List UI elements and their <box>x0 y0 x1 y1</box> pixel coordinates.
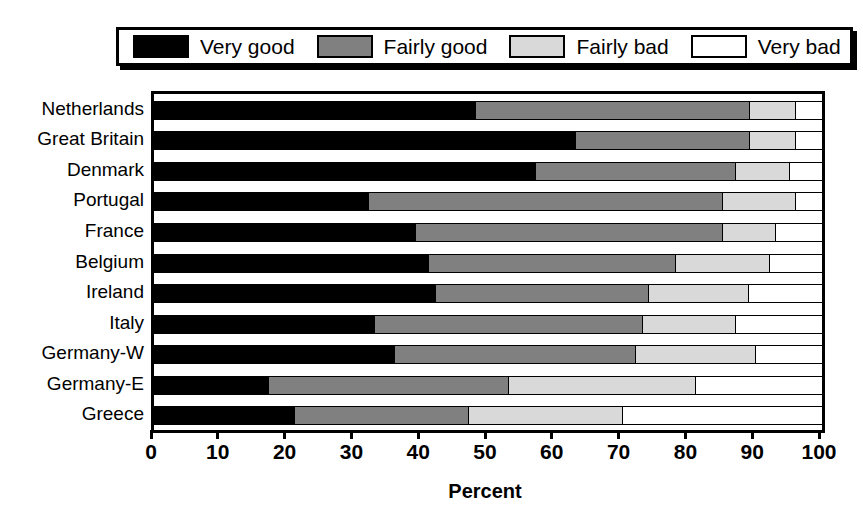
legend-item-very-bad: Very bad <box>691 30 859 63</box>
x-axis-ticks <box>151 430 819 439</box>
bar-segment-fairly-good <box>415 223 722 242</box>
bar-segment-fairly-good <box>428 254 675 273</box>
x-axis-title: Percent <box>151 481 819 501</box>
bar-segment-fairly-bad <box>648 284 748 303</box>
bar-segment-fairly-good <box>435 284 649 303</box>
y-axis-label-belgium: Belgium <box>0 252 144 271</box>
legend-item-fairly-bad: Fairly bad <box>509 30 686 63</box>
x-axis-tick-label: 90 <box>741 441 764 462</box>
bar-segment-very-bad <box>789 162 822 181</box>
bar-segment-very-good <box>154 131 575 150</box>
bar-segment-fairly-bad <box>749 101 796 120</box>
bar-segment-very-bad <box>769 254 822 273</box>
bar-row <box>154 406 822 425</box>
legend-item-fairly-good: Fairly good <box>317 30 506 63</box>
bar-row <box>154 192 822 211</box>
y-axis-label-great-britain: Great Britain <box>0 129 144 148</box>
bar-segment-fairly-bad <box>722 192 795 211</box>
y-axis-label-italy: Italy <box>0 313 144 332</box>
x-axis-tick-label: 40 <box>407 441 430 462</box>
bar-segment-fairly-bad <box>749 131 796 150</box>
bar-segment-fairly-bad <box>735 162 788 181</box>
x-axis-tick-label: 80 <box>674 441 697 462</box>
y-axis-label-netherlands: Netherlands <box>0 99 144 118</box>
legend-label-very-good: Very good <box>200 36 295 57</box>
x-axis-tick <box>617 430 620 439</box>
bar-segment-very-bad <box>695 376 822 395</box>
y-axis-label-germany-e: Germany-E <box>0 374 144 393</box>
bar-segment-very-bad <box>795 131 822 150</box>
x-axis-tick-label: 60 <box>540 441 563 462</box>
bar-segment-very-good <box>154 192 368 211</box>
bar-row <box>154 376 822 395</box>
y-axis-label-france: France <box>0 221 144 240</box>
x-axis-tick <box>216 430 219 439</box>
x-axis-tick-label: 100 <box>801 441 836 462</box>
legend-swatch-fairly-bad <box>509 35 565 58</box>
bar-segment-fairly-good <box>575 131 749 150</box>
bar-segment-fairly-good <box>294 406 468 425</box>
y-axis-labels: NetherlandsGreat BritainDenmarkPortugalF… <box>0 91 144 427</box>
bar-segment-very-bad <box>735 315 822 334</box>
y-axis-label-greece: Greece <box>0 404 144 423</box>
legend-swatch-fairly-good <box>317 35 373 58</box>
bar-row <box>154 223 822 242</box>
bar-segment-very-good <box>154 284 435 303</box>
legend-swatch-very-bad <box>691 35 747 58</box>
x-axis-tick <box>150 430 153 439</box>
x-axis-tick <box>818 430 821 439</box>
bar-row <box>154 131 822 150</box>
bar-segment-very-bad <box>795 192 822 211</box>
x-axis-tick <box>751 430 754 439</box>
bar-segment-very-bad <box>622 406 822 425</box>
bar-segment-fairly-good <box>368 192 722 211</box>
bar-segment-very-bad <box>795 101 822 120</box>
x-axis-tick-label: 70 <box>607 441 630 462</box>
bar-segment-very-good <box>154 101 475 120</box>
bar-row <box>154 162 822 181</box>
bar-segment-very-good <box>154 406 294 425</box>
bar-segment-fairly-bad <box>635 345 755 364</box>
bar-row <box>154 284 822 303</box>
x-axis-tick <box>350 430 353 439</box>
chart-legend: Very good Fairly good Fairly bad Very ba… <box>116 27 853 66</box>
bar-segment-fairly-bad <box>722 223 775 242</box>
x-axis-tick <box>684 430 687 439</box>
bar-segment-very-good <box>154 223 415 242</box>
x-axis-tick <box>550 430 553 439</box>
x-axis-tick <box>484 430 487 439</box>
bar-row <box>154 345 822 364</box>
x-axis-tick-label: 50 <box>473 441 496 462</box>
plot-area <box>151 91 825 433</box>
bar-segment-fairly-bad <box>642 315 736 334</box>
stacked-bar-chart: Very good Fairly good Fairly bad Very ba… <box>0 0 863 514</box>
legend-label-fairly-good: Fairly good <box>384 36 488 57</box>
legend-label-fairly-bad: Fairly bad <box>576 36 668 57</box>
x-axis-tick <box>417 430 420 439</box>
bar-segment-fairly-good <box>268 376 508 395</box>
x-axis-tick-label: 20 <box>273 441 296 462</box>
x-axis-tick-label: 30 <box>340 441 363 462</box>
y-axis-label-denmark: Denmark <box>0 160 144 179</box>
bar-segment-very-good <box>154 254 428 273</box>
bar-row <box>154 254 822 273</box>
legend-item-very-good: Very good <box>133 30 313 63</box>
bar-segment-fairly-good <box>374 315 641 334</box>
bar-segment-very-good <box>154 345 394 364</box>
bar-segment-very-good <box>154 162 535 181</box>
bars-container <box>154 94 822 430</box>
legend-swatch-very-good <box>133 35 189 58</box>
bar-segment-fairly-good <box>535 162 735 181</box>
bar-segment-very-good <box>154 376 268 395</box>
y-axis-label-portugal: Portugal <box>0 190 144 209</box>
x-axis-tick-labels: 0102030405060708090100 <box>0 441 863 467</box>
legend-label-very-bad: Very bad <box>758 36 841 57</box>
bar-segment-fairly-good <box>394 345 634 364</box>
bar-segment-fairly-bad <box>675 254 769 273</box>
bar-segment-very-good <box>154 315 374 334</box>
bar-segment-very-bad <box>748 284 821 303</box>
bar-row <box>154 101 822 120</box>
bar-segment-fairly-bad <box>508 376 695 395</box>
bar-segment-very-bad <box>775 223 822 242</box>
y-axis-label-germany-w: Germany-W <box>0 343 144 362</box>
